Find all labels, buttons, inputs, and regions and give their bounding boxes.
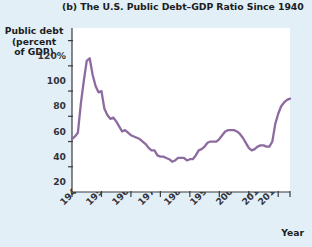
plot-area [0,0,312,247]
chart-figure: (b) The U.S. Public Debt–GDP Ratio Since… [0,0,312,247]
